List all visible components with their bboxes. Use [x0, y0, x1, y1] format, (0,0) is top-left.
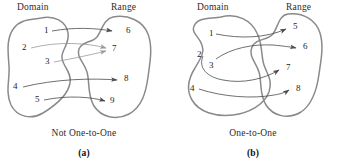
panel-a-caption: Not One-to-One [0, 128, 168, 138]
panel-a-graphics [0, 0, 168, 167]
panel-b-range-item-6: 6 [303, 42, 308, 51]
panel-b-arrow-3-to-6 [216, 45, 296, 59]
panel-a-arrow-2-to-7 [31, 43, 106, 48]
panel-b-sub-caption: (b) [169, 148, 337, 158]
panel-a-range-item-8: 8 [124, 74, 129, 83]
panel-b-domain-item-4: 4 [190, 84, 195, 93]
panel-b: Domain Range 1 2 3 4 5 [169, 0, 337, 167]
one-to-one-function-figure: Domain Range [0, 0, 337, 167]
panel-b-caption: One-to-One [169, 128, 337, 138]
panel-b-domain-item-1: 1 [209, 29, 214, 38]
panel-a-domain-item-1: 1 [44, 26, 49, 35]
panel-a-sub-caption: (a) [0, 148, 168, 158]
panel-a: Domain Range [0, 0, 168, 167]
panel-a-domain-item-2: 2 [22, 43, 27, 52]
panel-b-domain-blob [189, 16, 271, 116]
panel-a-range-item-9: 9 [110, 96, 115, 105]
panel-b-range-item-8: 8 [296, 84, 301, 93]
panel-a-range-item-6: 6 [126, 26, 131, 35]
panel-a-domain-item-3: 3 [45, 57, 50, 66]
panel-a-arrow-5-to-9 [44, 97, 105, 101]
panel-a-arrow-1-to-6 [52, 28, 112, 31]
panel-b-domain-item-3: 3 [209, 61, 214, 70]
panel-a-range-item-7: 7 [112, 44, 117, 53]
panel-a-domain-item-5: 5 [35, 95, 40, 104]
panel-b-domain-item-2: 2 [197, 50, 202, 59]
panel-a-domain-item-4: 4 [13, 82, 18, 91]
panel-b-range-item-7: 7 [286, 63, 291, 72]
panel-b-range-item-5: 5 [293, 22, 298, 31]
panel-b-arrow-4-to-8 [199, 89, 289, 97]
